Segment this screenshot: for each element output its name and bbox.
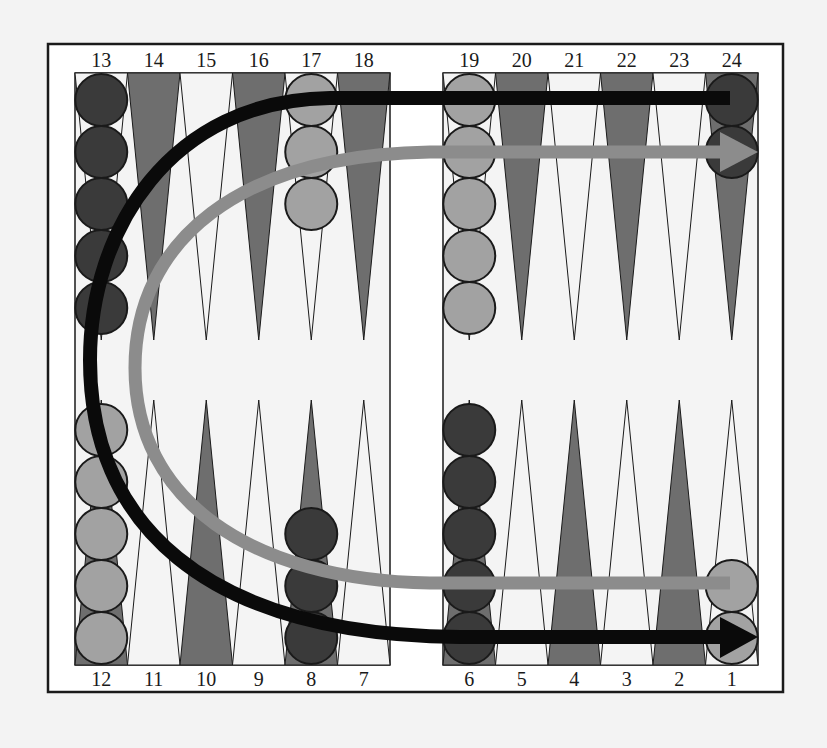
checker-dark-point-6 (443, 404, 495, 456)
label-point-14: 14 (144, 49, 164, 71)
label-point-5: 5 (517, 668, 527, 690)
checker-light-point-19 (443, 282, 495, 334)
label-point-12: 12 (91, 668, 111, 690)
label-point-24: 24 (722, 49, 742, 71)
label-point-15: 15 (196, 49, 216, 71)
label-point-20: 20 (512, 49, 532, 71)
label-point-1: 1 (727, 668, 737, 690)
label-point-9: 9 (254, 668, 264, 690)
checker-dark-point-8 (285, 508, 337, 560)
label-point-13: 13 (91, 49, 111, 71)
label-point-16: 16 (249, 49, 269, 71)
checker-dark-point-6 (443, 456, 495, 508)
label-point-3: 3 (622, 668, 632, 690)
label-point-4: 4 (569, 668, 579, 690)
label-point-19: 19 (459, 49, 479, 71)
label-point-17: 17 (301, 49, 321, 71)
checker-light-point-12 (75, 612, 127, 664)
label-point-7: 7 (359, 668, 369, 690)
checker-dark-point-13 (75, 126, 127, 178)
label-point-8: 8 (306, 668, 316, 690)
label-point-10: 10 (196, 668, 216, 690)
label-point-11: 11 (144, 668, 163, 690)
label-point-6: 6 (464, 668, 474, 690)
label-point-23: 23 (669, 49, 689, 71)
label-point-18: 18 (354, 49, 374, 71)
checker-light-point-19 (443, 178, 495, 230)
label-point-22: 22 (617, 49, 637, 71)
checker-dark-point-13 (75, 74, 127, 126)
label-point-21: 21 (564, 49, 584, 71)
checker-light-point-12 (75, 508, 127, 560)
label-point-2: 2 (674, 668, 684, 690)
checker-light-point-17 (285, 178, 337, 230)
checker-dark-point-6 (443, 508, 495, 560)
checker-light-point-19 (443, 230, 495, 282)
backgammon-board: 131214111510169178187196205214223232241 (0, 0, 827, 748)
checker-light-point-12 (75, 560, 127, 612)
